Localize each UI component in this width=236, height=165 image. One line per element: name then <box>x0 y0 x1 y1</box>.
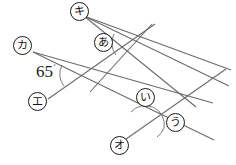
arc-u <box>157 128 164 137</box>
label-u: う <box>166 113 185 132</box>
arc-65-degrees <box>60 65 64 86</box>
geometry-figure: 65˚ キ カ あ エ い う オ <box>0 0 236 165</box>
line-ki-transversal-lower <box>66 92 90 118</box>
label-a-text: あ <box>98 37 109 48</box>
label-a: あ <box>94 33 113 52</box>
label-e: エ <box>28 92 47 111</box>
label-i-text: い <box>140 92 151 103</box>
angle-65-label: 65˚ <box>36 62 56 82</box>
arc-i <box>131 105 164 128</box>
label-ka: カ <box>13 36 32 55</box>
label-o-text: オ <box>114 140 125 151</box>
label-e-text: エ <box>32 96 43 107</box>
label-ki: キ <box>70 2 89 21</box>
label-i: い <box>136 88 155 107</box>
transversal-line-2 <box>119 69 226 144</box>
label-ki-text: キ <box>74 6 85 17</box>
degree-symbol: ˚ <box>53 62 56 72</box>
label-ka-text: カ <box>17 40 28 51</box>
label-o: オ <box>110 136 129 155</box>
label-u-text: う <box>170 117 181 128</box>
angle-65-value: 65 <box>36 62 53 81</box>
